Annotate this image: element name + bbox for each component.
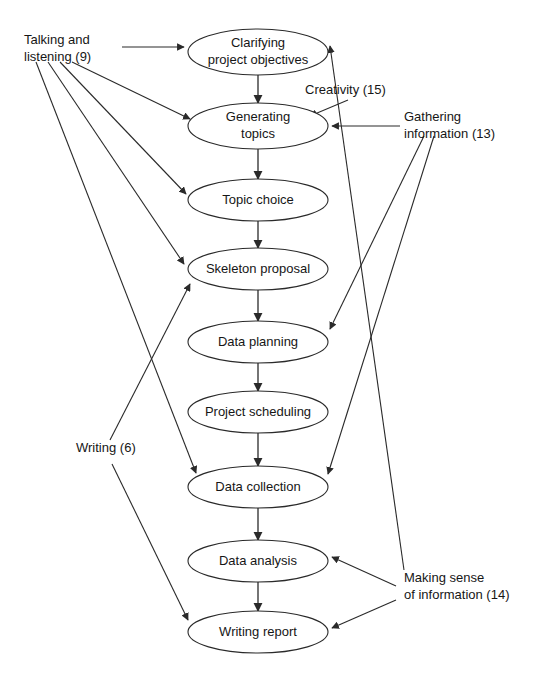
edge-writing-to-report [112, 464, 188, 620]
side-label-writing: Writing (6) [76, 440, 136, 455]
process-nodes: Clarifyingproject objectivesGeneratingto… [188, 29, 328, 653]
node-shape-topic [188, 179, 328, 221]
side-label-gathering: Gatheringinformation (13) [404, 109, 495, 141]
node-shape-generating [188, 103, 328, 149]
node-skeleton[interactable]: Skeleton proposal [188, 248, 328, 290]
node-shape-scheduling [188, 391, 328, 433]
side-label-creativity-line1: Creativity (15) [305, 82, 386, 97]
edge-talking-to-generating [72, 62, 190, 119]
edge-making-to-report [332, 600, 396, 628]
side-label-talking-line2: listening (9) [24, 49, 91, 64]
edge-talking-to-skeleton [48, 62, 184, 264]
node-generating[interactable]: Generatingtopics [188, 103, 328, 149]
process-diagram: Clarifyingproject objectivesGeneratingto… [0, 0, 538, 685]
edge-talking-to-collection [36, 62, 196, 473]
side-label-talking: Talking andlistening (9) [24, 32, 91, 64]
node-shape-planning [188, 321, 328, 363]
node-planning[interactable]: Data planning [188, 321, 328, 363]
edge-gathering-to-planning [330, 136, 424, 329]
flow-diagram-canvas: Clarifyingproject objectivesGeneratingto… [0, 0, 538, 685]
edge-making-to-clarifying [330, 46, 404, 570]
side-label-making-line1: Making sense [404, 570, 484, 585]
node-shape-skeleton [188, 248, 328, 290]
side-label-creativity: Creativity (15) [305, 82, 386, 97]
node-shape-analysis [188, 540, 328, 582]
edge-making-to-analysis [332, 557, 396, 586]
node-clarifying[interactable]: Clarifyingproject objectives [188, 29, 328, 75]
side-label-making: Making senseof information (14) [404, 570, 510, 602]
edge-gathering-to-collection [328, 136, 434, 474]
side-label-gathering-line2: information (13) [404, 126, 495, 141]
node-scheduling[interactable]: Project scheduling [188, 391, 328, 433]
side-label-writing-line1: Writing (6) [76, 440, 136, 455]
side-label-making-line2: of information (14) [404, 587, 510, 602]
node-topic[interactable]: Topic choice [188, 179, 328, 221]
node-shape-report [188, 611, 328, 653]
side-label-talking-line1: Talking and [24, 32, 90, 47]
node-shape-collection [188, 466, 328, 508]
node-collection[interactable]: Data collection [188, 466, 328, 508]
side-label-gathering-line1: Gathering [404, 109, 461, 124]
node-analysis[interactable]: Data analysis [188, 540, 328, 582]
node-report[interactable]: Writing report [188, 611, 328, 653]
node-shape-clarifying [188, 29, 328, 75]
edge-writing-to-skeleton [110, 284, 190, 440]
